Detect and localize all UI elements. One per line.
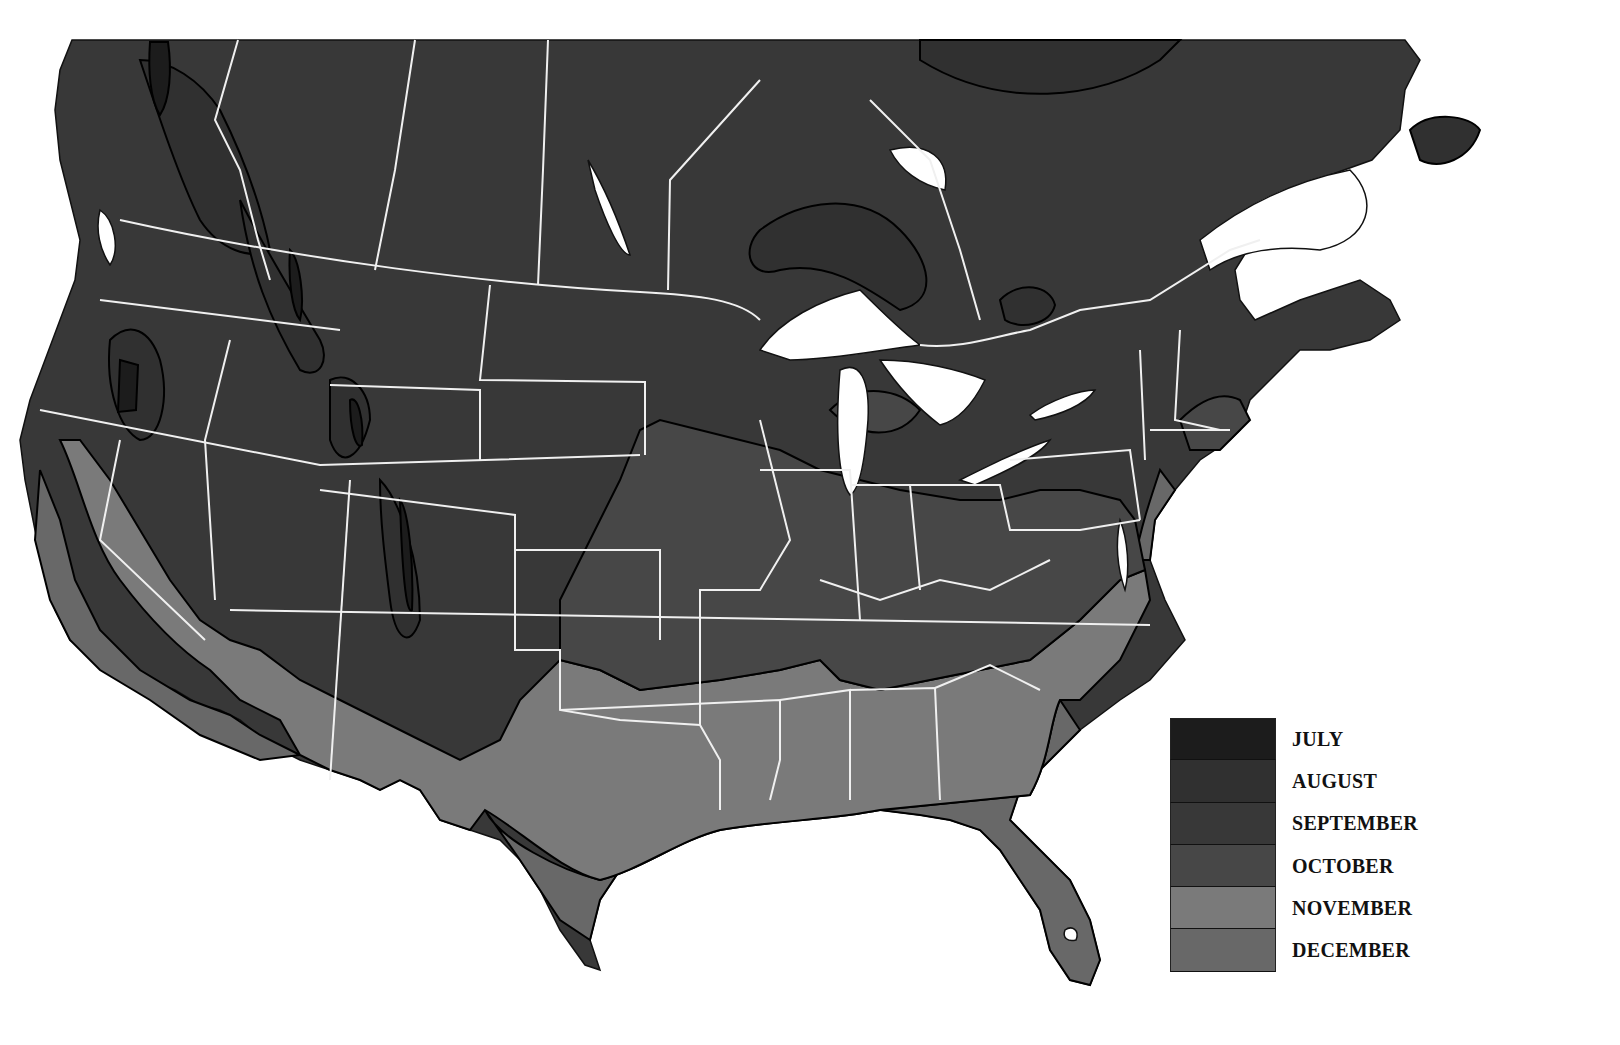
legend-swatch-december: [1170, 929, 1276, 971]
legend-item-august: AUGUST: [1170, 760, 1418, 802]
legend-swatch-july: [1170, 718, 1276, 760]
legend-label-december: DECEMBER: [1292, 939, 1410, 962]
legend-label-november: NOVEMBER: [1292, 897, 1412, 920]
legend-item-december: DECEMBER: [1170, 929, 1418, 971]
legend-item-october: OCTOBER: [1170, 845, 1418, 887]
legend-item-september: SEPTEMBER: [1170, 803, 1418, 845]
legend-swatch-october: [1170, 845, 1276, 887]
legend-swatch-september: [1170, 803, 1276, 845]
legend-label-october: OCTOBER: [1292, 855, 1394, 878]
legend: JULY AUGUST SEPTEMBER OCTOBER NOVEMBER D…: [1170, 718, 1418, 972]
legend-label-september: SEPTEMBER: [1292, 812, 1418, 835]
legend-swatch-november: [1170, 887, 1276, 929]
legend-swatch-august: [1170, 760, 1276, 802]
lake-okeechobee: [1064, 928, 1077, 940]
legend-item-november: NOVEMBER: [1170, 887, 1418, 929]
legend-label-august: AUGUST: [1292, 770, 1377, 793]
legend-label-july: JULY: [1292, 728, 1344, 751]
legend-item-july: JULY: [1170, 718, 1418, 760]
